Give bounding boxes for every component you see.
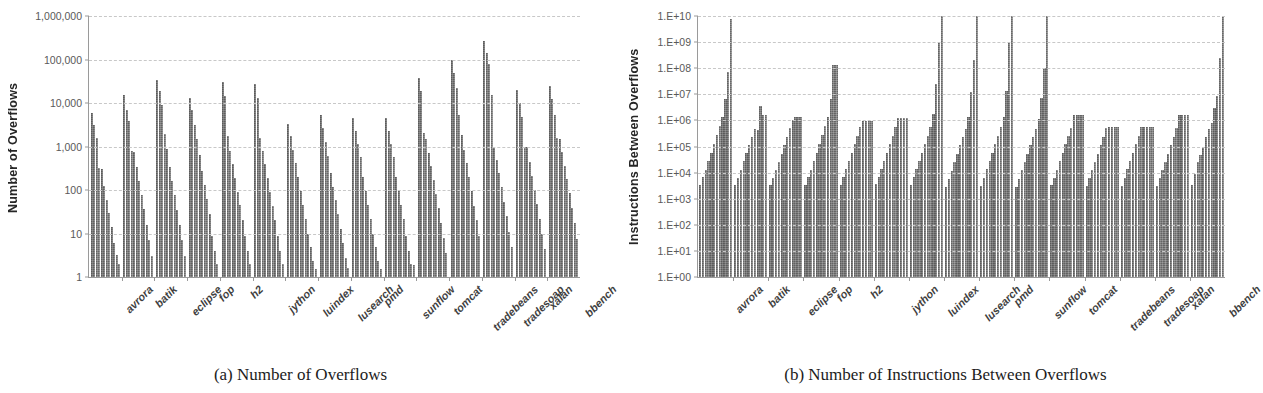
gridline (89, 190, 580, 191)
bar (478, 236, 480, 278)
x-axis-tick-label: jython (286, 283, 318, 315)
x-axis-tick-label: batik (766, 283, 793, 310)
bar (511, 247, 513, 277)
bar (445, 253, 447, 277)
bar (800, 117, 802, 277)
bar (413, 265, 415, 277)
y-axis-tick-label: 1.E+02 (657, 219, 698, 231)
bar (576, 239, 578, 277)
x-axis-tick-label: batik (153, 283, 180, 310)
y-axis-tick-label: 100,000 (44, 54, 89, 66)
y-axis-tick-label: 10,000 (50, 97, 89, 109)
x-axis-tick-label: xalan (546, 283, 574, 311)
y-axis-tick-mark (85, 146, 89, 147)
y-axis-tick-mark (694, 16, 698, 17)
y-axis-tick-label: 1,000 (56, 141, 89, 153)
bar (282, 264, 284, 277)
bar (730, 19, 732, 277)
bar (216, 264, 218, 277)
x-axis-tick-label: avrora (122, 283, 154, 315)
y-axis-tick-label: 1.E+05 (657, 141, 698, 153)
bar (765, 115, 767, 277)
gridline (698, 120, 1225, 121)
bar (1081, 115, 1083, 277)
bar (544, 249, 546, 277)
x-axis-tick-label: tomcat (450, 283, 484, 317)
y-axis-tick-label: 1.E+09 (657, 36, 698, 48)
x-axis-tick-label: luindex (945, 283, 981, 319)
gridline (89, 60, 580, 61)
gridline (698, 94, 1225, 95)
y-axis-tick-mark (694, 68, 698, 69)
x-axis-tick-label: luindex (320, 283, 356, 319)
x-axis-tick-label: avrora (733, 283, 765, 315)
y-axis-tick-label: 1.E+01 (657, 245, 698, 257)
y-axis-tick-label: 1.E+06 (657, 114, 698, 126)
y-axis-tick-mark (694, 146, 698, 147)
bar (835, 65, 837, 277)
x-axis-tick-label: jython (909, 283, 941, 315)
bar (380, 269, 382, 277)
gridline (698, 251, 1225, 252)
panel-b-x-axis-labels: avrorabatikeclipsefoph2jythonluindexluse… (698, 277, 1225, 339)
panel-a-y-axis-title: Number of Overflows (6, 40, 20, 255)
x-axis-tick-label: eclipse (189, 283, 224, 318)
x-axis-tick-label: sunflow (1052, 283, 1090, 321)
y-axis-tick-mark (694, 224, 698, 225)
x-axis-tick-label: eclipse (804, 283, 839, 318)
bar (906, 118, 908, 277)
gridline (89, 147, 580, 148)
x-axis-tick-label: h2 (247, 283, 265, 301)
x-axis-tick-label: bbench (582, 283, 618, 319)
gridline (89, 16, 580, 17)
bar (1151, 127, 1153, 277)
x-axis-tick-label: sunflow (419, 283, 457, 321)
y-axis-tick-mark (85, 233, 89, 234)
x-axis-tick-label: bbench (1227, 283, 1263, 319)
panel-b-plot-area: avrorabatikeclipsefoph2jythonluindexluse… (697, 16, 1225, 278)
bar (1187, 115, 1189, 277)
gridline (698, 147, 1225, 148)
y-axis-tick-mark (694, 250, 698, 251)
x-axis-tick-label: tomcat (1085, 283, 1119, 317)
x-axis-tick-label: h2 (868, 283, 886, 301)
gridline (698, 68, 1225, 69)
y-axis-tick-label: 1.E+03 (657, 193, 698, 205)
y-axis-tick-label: 1,000,000 (35, 10, 89, 22)
y-axis-tick-mark (694, 277, 698, 278)
y-axis-tick-mark (85, 277, 89, 278)
panel-a-caption: (a) Number of Overflows (0, 365, 613, 385)
y-axis-tick-label: 1.E+08 (657, 62, 698, 74)
panel-a-plot-area: avrorabatikeclipsefoph2jythonluindexluse… (88, 16, 580, 278)
gridline (698, 173, 1225, 174)
y-axis-tick-mark (694, 42, 698, 43)
y-axis-tick-label: 1.E+04 (657, 167, 698, 179)
panel-a-x-axis-labels: avrorabatikeclipsefoph2jythonluindexluse… (89, 277, 580, 339)
panel-a-number-of-overflows: Number of Overflows avrorabatikeclipsefo… (0, 0, 625, 393)
y-axis-tick-mark (85, 190, 89, 191)
x-axis-tick-label: fop (834, 283, 855, 304)
y-axis-tick-label: 1.E+07 (657, 88, 698, 100)
gridline (89, 234, 580, 235)
y-axis-tick-mark (694, 198, 698, 199)
bar (151, 256, 153, 277)
y-axis-tick-mark (85, 16, 89, 17)
y-axis-tick-mark (694, 120, 698, 121)
gridline (89, 103, 580, 104)
y-axis-tick-mark (85, 59, 89, 60)
bar (249, 264, 251, 277)
panel-b-caption: (b) Number of Instructions Between Overf… (633, 365, 1258, 385)
gridline (698, 42, 1225, 43)
bar (315, 269, 317, 277)
y-axis-tick-label: 1.E+10 (657, 10, 698, 22)
panel-b-y-axis-title: Instructions Between Overflows (627, 16, 641, 278)
gridline (698, 199, 1225, 200)
bar (184, 256, 186, 277)
gridline (698, 16, 1225, 17)
y-axis-tick-mark (85, 103, 89, 104)
y-axis-tick-mark (694, 94, 698, 95)
y-axis-tick-label: 1.E+00 (657, 271, 698, 283)
bar (1116, 127, 1118, 277)
bar (347, 268, 349, 277)
